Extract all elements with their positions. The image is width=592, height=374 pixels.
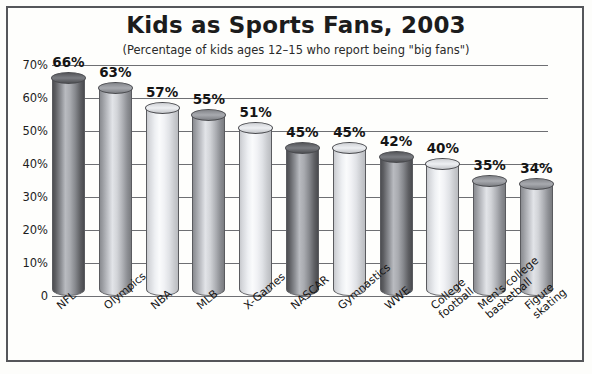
plot-area: 70%60%50%40%30%20%10%0 66%63%57%55%51%45… bbox=[0, 0, 592, 374]
y-axis-tick-label: 20% bbox=[4, 223, 48, 237]
y-axis-tick: 10% bbox=[0, 256, 48, 270]
bar-top-cap bbox=[472, 175, 507, 187]
bar-body bbox=[99, 88, 132, 296]
chart-figure: Kids as Sports Fans, 2003 (Percentage of… bbox=[0, 0, 592, 374]
bar-value-label: 34% bbox=[510, 160, 564, 176]
bar-body bbox=[286, 148, 319, 297]
y-axis-tick: 20% bbox=[0, 223, 48, 237]
y-axis-tick: 60% bbox=[0, 91, 48, 105]
bar-body bbox=[239, 128, 272, 296]
y-axis-tick-label: 30% bbox=[4, 190, 48, 204]
bar bbox=[192, 115, 225, 297]
bar-body bbox=[426, 164, 459, 296]
bar bbox=[473, 181, 506, 297]
bar-value-label: 63% bbox=[88, 64, 142, 80]
bar bbox=[99, 88, 132, 296]
bar-top-cap bbox=[191, 109, 226, 121]
y-axis-tick: 30% bbox=[0, 190, 48, 204]
bar-top-cap bbox=[285, 142, 320, 154]
bar bbox=[146, 108, 179, 296]
bar bbox=[239, 128, 272, 296]
bar-top-cap bbox=[519, 178, 554, 190]
y-axis-tick: 40% bbox=[0, 157, 48, 171]
bar-body bbox=[146, 108, 179, 296]
bar-body bbox=[52, 78, 85, 296]
bar-top-cap bbox=[238, 122, 273, 134]
y-axis-tick-label: 40% bbox=[4, 157, 48, 171]
bar-value-label: 40% bbox=[416, 140, 470, 156]
bar-top-cap bbox=[145, 102, 180, 114]
bar-value-label: 51% bbox=[229, 104, 283, 120]
y-axis-tick: 0 bbox=[0, 289, 48, 303]
bar bbox=[286, 148, 319, 297]
bar-body bbox=[192, 115, 225, 297]
bar-top-cap bbox=[332, 142, 367, 154]
bar-body bbox=[473, 181, 506, 297]
y-axis-tick-label: 60% bbox=[4, 91, 48, 105]
y-axis-tick: 50% bbox=[0, 124, 48, 138]
bar bbox=[52, 78, 85, 296]
bar bbox=[426, 164, 459, 296]
y-axis-tick-label: 10% bbox=[4, 256, 48, 270]
bar-top-cap bbox=[98, 82, 133, 94]
bar-body bbox=[333, 148, 366, 297]
y-axis-tick-label: 0 bbox=[4, 289, 48, 303]
y-axis-tick-label: 50% bbox=[4, 124, 48, 138]
bar bbox=[333, 148, 366, 297]
